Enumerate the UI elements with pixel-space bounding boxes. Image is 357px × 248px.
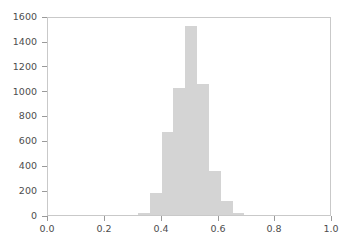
y-tick-label: 1600: [0, 12, 37, 22]
x-tick-label: 0.8: [254, 224, 294, 234]
histogram-bar: [173, 88, 185, 215]
plot-area: [47, 17, 331, 216]
y-tick-label: 400: [0, 161, 37, 171]
x-tick-label: 0.0: [27, 224, 67, 234]
x-tick-label: 1.0: [311, 224, 351, 234]
histogram-bar: [221, 201, 233, 215]
y-tick-label: 1000: [0, 87, 37, 97]
x-tick-label: 0.2: [84, 224, 124, 234]
x-tick-label: 0.4: [141, 224, 181, 234]
histogram-bar: [150, 193, 162, 215]
histogram-figure: 1600 1400 1200 1000 800 600 400 200 0 0.…: [0, 0, 357, 248]
histogram-bars: [48, 18, 330, 215]
histogram-bar: [138, 213, 150, 215]
y-tick-label: 1200: [0, 62, 37, 72]
y-tick-label: 600: [0, 136, 37, 146]
histogram-bar: [233, 213, 245, 215]
y-tick-label: 800: [0, 111, 37, 121]
histogram-bar: [185, 26, 197, 215]
y-tick-label: 1400: [0, 37, 37, 47]
x-tick-mark: [274, 216, 275, 221]
y-tick-label: 0: [0, 211, 37, 221]
x-tick-label: 0.6: [198, 224, 238, 234]
x-tick-mark: [104, 216, 105, 221]
x-tick-mark: [218, 216, 219, 221]
x-tick-mark: [161, 216, 162, 221]
x-tick-mark: [47, 216, 48, 221]
histogram-bar: [209, 171, 221, 215]
histogram-bar: [162, 132, 174, 215]
histogram-bar: [197, 84, 209, 215]
y-tick-label: 200: [0, 186, 37, 196]
x-tick-mark: [331, 216, 332, 221]
